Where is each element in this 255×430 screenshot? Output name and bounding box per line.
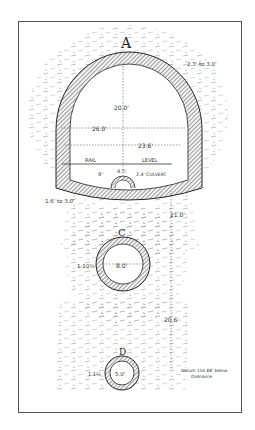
lining-thickness-label: 2.3' to 3.0' xyxy=(187,61,217,67)
section-d-label: D xyxy=(119,347,126,357)
tunnel-cross-section-diagram: A 2.3' to 3.0' 20.0' 26.0' 23.6' RAIL LE… xyxy=(0,0,255,430)
d-lining-label: 1.1½ xyxy=(88,371,101,377)
width-springing-label: 23.6' xyxy=(138,142,153,149)
width-max-label: 26.0' xyxy=(92,125,107,132)
c-to-d-spacing-label: 20.6' xyxy=(164,316,179,323)
d-diameter-label: 5.0' xyxy=(115,371,125,377)
culvert-label: 2.4' CULVERT xyxy=(136,172,167,177)
invert-thickness-label: 1.6' to 3.0' xyxy=(45,198,75,204)
culvert-offset-label: 4.5' xyxy=(117,168,126,174)
section-a xyxy=(56,52,202,200)
section-a-label: A xyxy=(120,35,132,51)
culvert-radius-label: 9' xyxy=(98,171,103,177)
c-diameter-label: 8.0' xyxy=(116,262,128,269)
height-label: 20.0' xyxy=(114,104,129,111)
level-label: LEVEL xyxy=(142,157,158,163)
rail-label: RAIL xyxy=(85,157,96,163)
datum-note-line1: Datum 154.68' below xyxy=(181,368,228,373)
c-lining-label: 1.10½ xyxy=(77,263,95,269)
a-to-c-spacing-label: 21.0' xyxy=(170,211,185,218)
section-c-label: C xyxy=(118,227,126,238)
datum-note-line2: Ordnance xyxy=(191,374,212,379)
